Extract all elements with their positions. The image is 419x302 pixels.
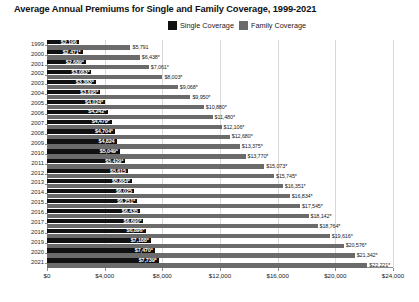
bar-value-label-single: $2,471* <box>57 50 81 54</box>
bar-row: 2010$13,770*$5,049* <box>47 149 393 159</box>
x-axis-tick-label: $0 <box>44 272 51 279</box>
y-axis-tick-label: 2017 <box>31 218 44 228</box>
bar-value-label-family: $11,480* <box>215 115 235 119</box>
bar-family-coverage[interactable] <box>47 174 274 178</box>
bar-family-coverage[interactable] <box>47 194 290 198</box>
legend-item-family: Family Coverage <box>239 21 306 30</box>
bar-family-coverage[interactable] <box>47 224 318 228</box>
bar-value-label-family: $16,834* <box>292 194 313 198</box>
bar-value-label-family: $9,950* <box>192 95 210 99</box>
bar-value-label-single: $3,695* <box>74 90 98 94</box>
y-axis-tick-label: 2011 <box>31 159 44 169</box>
bar-value-label-single: $5,884* <box>106 179 130 183</box>
bar-value-label-single: $3,083* <box>65 70 89 74</box>
bar-value-label-family: $21,342* <box>357 253 378 257</box>
bar-value-label-single: $4,024* <box>79 100 103 104</box>
bar-family-coverage[interactable] <box>47 75 162 79</box>
bar-value-label-single: $2,689* <box>60 60 84 64</box>
bar-family-coverage[interactable] <box>47 144 240 148</box>
chart-legend: Single Coverage Family Coverage <box>168 21 306 30</box>
bar-family-coverage[interactable] <box>47 45 130 49</box>
bar-family-coverage[interactable] <box>47 164 264 168</box>
bar-value-label-single: $3,383* <box>70 80 94 84</box>
bar-family-coverage[interactable] <box>47 65 149 69</box>
bar-row: 2015$17,545*$6,251* <box>47 199 393 209</box>
x-axis-tick-mark <box>162 268 163 271</box>
bar-row: 1999$5,791$2,196 <box>47 40 393 50</box>
legend-label-single-coverage: Single Coverage <box>180 21 234 30</box>
bar-value-label-single: $6,690* <box>117 219 141 223</box>
bar-row: 2018$19,616*$6,896* <box>47 229 393 239</box>
bar-family-coverage[interactable] <box>47 115 213 119</box>
bar-value-label-single: $6,251* <box>111 199 135 203</box>
y-axis-tick-label: 2000 <box>31 50 44 60</box>
y-axis-tick-label: 2001 <box>31 60 44 70</box>
bar-row: 2002$8,003*$3,083* <box>47 70 393 80</box>
bar-family-coverage[interactable] <box>47 95 190 99</box>
bar-family-coverage[interactable] <box>47 204 300 208</box>
bar-value-label-family: $5,791 <box>132 45 148 49</box>
x-axis-tick-mark <box>335 268 336 271</box>
bar-family-coverage[interactable] <box>47 253 355 257</box>
bar-row: 2014$16,834*$6,025 <box>47 189 393 199</box>
bar-row: 2012$15,745*$5,615 <box>47 169 393 179</box>
legend-item-single: Single Coverage <box>168 21 234 30</box>
bar-value-label-family: $22,221* <box>369 263 390 267</box>
bar-value-label-family: $12,106* <box>224 125 245 129</box>
bar-family-coverage[interactable] <box>47 154 246 158</box>
bar-value-label-family: $18,764* <box>320 224 341 228</box>
y-axis-tick-label: 2021 <box>31 258 44 268</box>
legend-label-family-coverage: Family Coverage <box>251 21 306 30</box>
bar-value-label-single: $7,739* <box>133 258 157 262</box>
bar-family-coverage[interactable] <box>47 55 140 59</box>
bar-family-coverage[interactable] <box>47 214 309 218</box>
bar-value-label-single: $4,479* <box>86 119 110 123</box>
x-axis-tick-label: $12,000 <box>209 272 231 279</box>
bar-row: 2003$9,068*$3,383* <box>47 80 393 90</box>
bar-value-label-family: $15,073* <box>266 164 287 168</box>
bar-value-label-family: $9,068* <box>180 85 198 89</box>
bar-value-label-single: $6,435 <box>114 209 138 213</box>
bar-value-label-single: $5,615 <box>102 169 126 173</box>
bar-family-coverage[interactable] <box>47 85 178 89</box>
bar-family-coverage[interactable] <box>47 244 344 248</box>
bar-row: 2011$15,073*$5,429* <box>47 159 393 169</box>
bar-value-label-single: $7,470* <box>129 248 153 252</box>
bar-row: 2001$7,061*$2,689* <box>47 60 393 70</box>
gridline <box>393 40 394 268</box>
chart-container: Average Annual Premiums for Single and F… <box>0 0 419 302</box>
bar-value-label-family: $8,003* <box>164 75 182 79</box>
bar-value-label-family: $15,745* <box>276 174 297 178</box>
bar-value-label-family: $20,576* <box>346 243 367 247</box>
y-axis-tick-label: 2018 <box>31 228 44 238</box>
legend-swatch-single-coverage <box>168 21 177 30</box>
bar-value-label-family: $10,880* <box>206 105 227 109</box>
y-axis-tick-label: 2019 <box>31 238 44 248</box>
bar-row: 2009$13,375*$4,824 <box>47 139 393 149</box>
bar-family-coverage[interactable] <box>47 135 230 139</box>
bar-family-coverage[interactable] <box>47 105 204 109</box>
y-axis-tick-label: 2012 <box>31 169 44 179</box>
bar-value-label-single: $2,196 <box>53 40 77 44</box>
x-axis-tick-mark <box>47 268 48 271</box>
y-axis-tick-label: 2016 <box>31 208 44 218</box>
y-axis-tick-label: 2020 <box>31 248 44 258</box>
bar-family-coverage[interactable] <box>47 184 283 188</box>
bar-family-coverage[interactable] <box>47 234 330 238</box>
y-axis-tick-label: 1999 <box>31 40 44 50</box>
x-axis-tick-label: $24,000 <box>382 272 404 279</box>
y-axis-tick-label: 2002 <box>31 69 44 79</box>
bar-family-coverage[interactable] <box>47 125 222 129</box>
bar-family-coverage[interactable] <box>47 263 367 267</box>
x-axis-tick-mark <box>393 268 394 271</box>
bar-row: 2016$18,142*$6,435 <box>47 209 393 219</box>
bar-value-label-family: $13,770* <box>248 154 269 158</box>
plot-area: 1999$5,791$2,1962000$6,438*$2,471*2001$7… <box>47 40 393 268</box>
bar-value-label-single: $4,242* <box>82 109 106 113</box>
bar-value-label-single: $4,824 <box>91 139 115 143</box>
bar-row: 2013$16,351*$5,884* <box>47 179 393 189</box>
x-axis-tick-mark <box>278 268 279 271</box>
y-axis-tick-label: 2013 <box>31 178 44 188</box>
bar-value-label-single: $5,429* <box>99 159 123 163</box>
bar-row: 2019$20,576*$7,188* <box>47 238 393 248</box>
